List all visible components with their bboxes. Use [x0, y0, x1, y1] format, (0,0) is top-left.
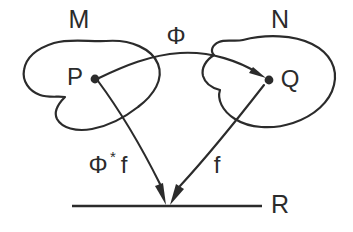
label-set-n: N [271, 5, 289, 33]
label-pullback-star: * [110, 148, 116, 165]
label-map-f: f [214, 151, 221, 178]
label-map-pullback: Φ * f [88, 148, 127, 178]
point-dot-q [265, 76, 274, 85]
label-set-r: R [271, 190, 289, 218]
label-pullback-f: f [121, 151, 128, 178]
map-arrow-f [180, 85, 264, 186]
map-arrow-pullback-head [155, 183, 166, 205]
set-blob-m [24, 40, 160, 130]
label-set-m: M [69, 5, 90, 33]
diagram-root: M N P Q Φ f R Φ * f [0, 0, 353, 232]
math-diagram-canvas: M N P Q Φ f R Φ * f [0, 0, 353, 232]
label-point-q: Q [281, 65, 300, 92]
label-pullback-phi: Φ [88, 151, 107, 178]
label-point-p: P [67, 63, 83, 90]
map-arrow-phi [99, 53, 258, 78]
label-map-phi: Φ [166, 22, 185, 49]
point-dot-p [91, 75, 100, 84]
map-arrow-f-head [170, 184, 184, 205]
